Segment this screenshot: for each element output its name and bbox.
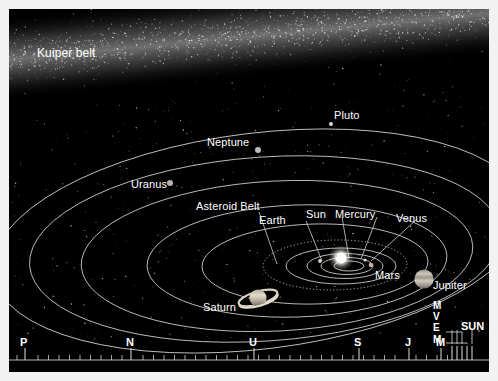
label-uranus: Uranus [131, 179, 167, 190]
planet-jupiter [414, 269, 433, 288]
label-neptune: Neptune [207, 137, 249, 148]
orbit-uranus [77, 171, 476, 341]
orbit-jupiter [201, 221, 429, 307]
planet-mercury [335, 255, 338, 258]
solar-system-diagram: Kuiper belt Pluto Neptune Uranus Asteroi… [0, 0, 498, 381]
label-mercury: Mercury [335, 209, 375, 220]
orbit-lines [9, 9, 489, 372]
sun-body [328, 245, 354, 271]
scale-label-saturn: S [354, 337, 361, 348]
planet-pluto [329, 122, 333, 126]
scale-label-sun: SUN [461, 321, 484, 332]
label-kuiper-belt: Kuiper belt [37, 48, 95, 59]
label-pluto: Pluto [334, 110, 360, 121]
label-jupiter: Jupiter [433, 280, 467, 291]
planet-venus [363, 258, 366, 261]
label-saturn: Saturn [203, 302, 236, 313]
scale-label-earth: E [433, 322, 440, 333]
scale-label-inner-mars: M [433, 300, 441, 311]
planet-saturn [237, 286, 279, 311]
scale-label-jupiter: J [405, 337, 411, 348]
label-mars: Mars [375, 270, 400, 281]
scale-label-pluto: P [20, 337, 27, 348]
planet-uranus [167, 180, 173, 186]
scale-label-uranus: U [249, 337, 257, 348]
planet-neptune [255, 147, 261, 153]
scale-label-venus: V [433, 311, 440, 322]
diagram-plate: Kuiper belt Pluto Neptune Uranus Asteroi… [9, 9, 489, 372]
label-asteroid-belt: Asteroid Belt [196, 201, 260, 212]
label-earth: Earth [259, 215, 286, 226]
planet-mars [369, 263, 374, 268]
scale-label-neptune: N [126, 337, 134, 348]
label-venus: Venus [396, 213, 427, 224]
planet-earth [318, 259, 322, 263]
scale-label-mercury: M [433, 334, 441, 345]
label-sun: Sun [306, 209, 326, 220]
